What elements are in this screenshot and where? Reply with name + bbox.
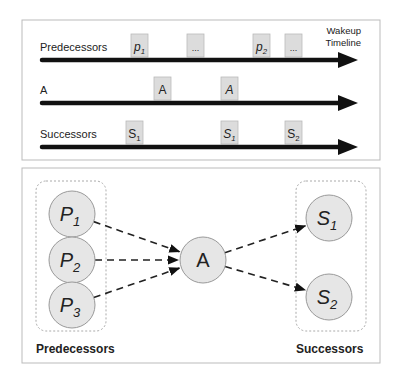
timeline-row-label: Successors xyxy=(40,128,97,140)
successor-node: S2 xyxy=(306,274,352,320)
successor-node: S1 xyxy=(306,195,352,241)
timeline-event: p1 xyxy=(131,34,148,57)
predecessors-group-label: Predecessors xyxy=(36,342,115,356)
successors-group-label: Successors xyxy=(296,342,364,356)
diagram-canvas: Predecessorsp1...p2...AAASuccessorsS1S1S… xyxy=(0,0,399,378)
center-node: A xyxy=(180,237,226,283)
predecessor-node: P2 xyxy=(49,237,95,283)
timeline-event: p2 xyxy=(253,34,270,57)
predecessor-node: P1 xyxy=(49,191,95,237)
timeline-event: ... xyxy=(285,34,302,57)
axis-label-line2: Timeline xyxy=(325,37,361,48)
timeline-event: A xyxy=(221,77,238,100)
timeline-event-label: A xyxy=(224,83,233,97)
timeline-event-label: ... xyxy=(192,43,200,53)
timeline-row-label: Predecessors xyxy=(40,41,108,53)
timeline-event: S2 xyxy=(285,121,302,144)
timeline-event: A xyxy=(154,77,171,100)
timeline-event: S1 xyxy=(221,121,238,144)
axis-label-line1: Wakeup xyxy=(327,25,362,36)
timeline-event: ... xyxy=(187,34,204,57)
timeline-event-label: A xyxy=(158,83,166,97)
center-node-label: A xyxy=(196,249,210,271)
timeline-row-label: A xyxy=(40,84,48,96)
timeline-event-label: ... xyxy=(290,43,298,53)
predecessor-node: P3 xyxy=(49,282,95,328)
timeline-event: S1 xyxy=(126,121,143,144)
